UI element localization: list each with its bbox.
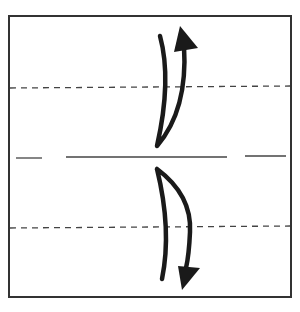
fold-diagram [0, 0, 300, 312]
